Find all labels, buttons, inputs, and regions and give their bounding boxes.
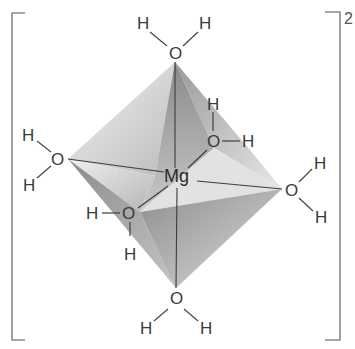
hydrogen-atom: H xyxy=(137,14,149,33)
oxygen-atom: O xyxy=(51,150,64,169)
oxygen-atom: O xyxy=(285,181,298,200)
ion-charge: 2 xyxy=(344,10,353,27)
hydrogen-atom: H xyxy=(207,95,219,114)
central-atom-mg: Mg xyxy=(164,166,189,186)
hydrogen-atom: H xyxy=(199,14,211,33)
oxygen-atom: O xyxy=(169,44,182,63)
oxygen-atom: O xyxy=(207,132,220,151)
hydrogen-atom: H xyxy=(124,245,136,264)
hydrogen-atom: H xyxy=(314,154,326,173)
oxygen-atom: O xyxy=(122,204,135,223)
hydrogen-atom: H xyxy=(200,319,212,338)
water-ligand-left: H H O xyxy=(22,126,64,195)
hydrogen-atom: H xyxy=(140,319,152,338)
hydrogen-atom: H xyxy=(22,126,34,145)
mg-hexaaqua-octahedron-diagram: 2 Mg H H O xyxy=(0,0,355,349)
water-ligand-top: H H O xyxy=(137,14,211,63)
hydrogen-atom: H xyxy=(242,132,254,151)
hydrogen-atom: H xyxy=(86,204,98,223)
hydrogen-atom: H xyxy=(23,176,35,195)
right-bracket xyxy=(325,12,340,340)
oxygen-atom: O xyxy=(170,289,183,308)
water-ligand-bottom: H H O xyxy=(140,289,212,338)
water-ligand-right: H H O xyxy=(285,154,327,227)
hydrogen-atom: H xyxy=(315,208,327,227)
water-ligand-front-left: H H O xyxy=(86,204,136,264)
